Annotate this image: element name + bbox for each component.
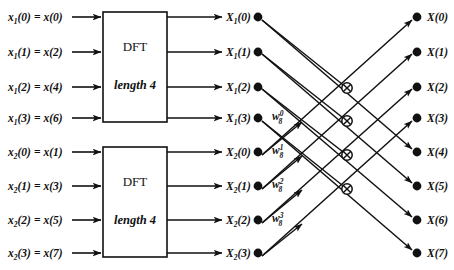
dft-top-line2: length 4	[114, 78, 156, 92]
output-label: X(0)	[426, 11, 448, 24]
dft-bottom-line1: DFT	[123, 174, 148, 189]
combine-node	[342, 116, 352, 126]
dft-block-top: DFT length 4	[103, 12, 167, 122]
mid-node	[254, 182, 263, 191]
mid-node	[254, 48, 263, 57]
output-label: X(1)	[426, 46, 448, 59]
output-node	[413, 13, 422, 22]
mid-node	[254, 114, 263, 123]
mid-node	[254, 83, 263, 92]
output-node	[413, 83, 422, 92]
combine-node	[342, 150, 352, 160]
output-label: X(7)	[426, 247, 448, 260]
output-node	[413, 182, 422, 191]
output-node	[413, 48, 422, 57]
output-node	[413, 249, 422, 258]
dft-bottom-line2: length 4	[114, 213, 156, 227]
combine-node	[342, 83, 352, 93]
combine-node	[342, 184, 352, 194]
dft-block-bottom: DFT length 4	[103, 147, 167, 257]
output-label: X(4)	[426, 146, 448, 159]
fft-diagram-canvas: DFT length 4 DFT length 4	[0, 0, 454, 270]
output-label: X(2)	[426, 81, 448, 94]
dft-top-line1: DFT	[123, 39, 148, 54]
mid-node	[254, 148, 263, 157]
output-node	[413, 216, 422, 225]
output-label: X(3)	[426, 112, 448, 125]
fft-flow-diagram: DFT length 4 DFT length 4	[0, 0, 454, 270]
diagram-background	[0, 0, 454, 270]
output-node	[413, 148, 422, 157]
mid-node	[254, 216, 263, 225]
output-label: X(6)	[426, 214, 448, 227]
mid-node	[254, 13, 263, 22]
output-node	[413, 114, 422, 123]
output-label: X(5)	[426, 180, 448, 193]
mid-node	[254, 249, 263, 258]
